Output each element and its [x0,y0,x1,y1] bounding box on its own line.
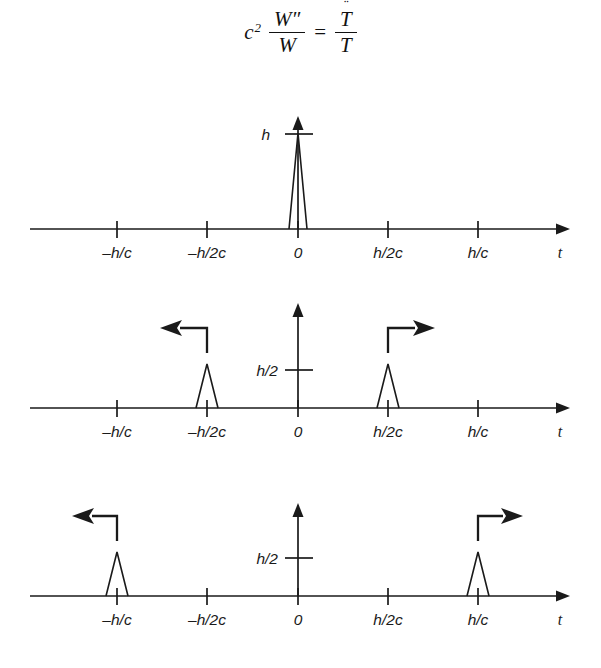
panel3-xtick-label-3: h/2c [373,611,403,628]
panel2-xtick-label-2: 0 [294,423,303,440]
panel1-ylabel-h: h [261,126,270,143]
panel3-xtick-label-1: –h/2c [187,611,226,628]
panel3-x-axis-arrowhead [556,591,570,602]
panel2-xtick-label-4: h/c [468,423,489,440]
panel2-ylabel-h-over-2: h/2 [256,362,278,379]
panel2-x-axis-arrowhead [556,403,570,414]
panel3-ylabel-h-over-2: h/2 [256,550,278,567]
panel2-y-axis-arrowhead [293,303,304,317]
panel2-xtick-label-1: –h/2c [187,423,226,440]
panel3-motion-arrow-left-line [92,516,117,541]
panel3-motion-arrow-right-line [478,516,503,541]
figure-root: c2 W″ W = ¨ T T [0,0,601,668]
panel2-xtick-label-0: –h/c [101,423,132,440]
panel1-xtick-label-0: –h/c [101,244,132,261]
panel2-motion-arrow-right-head [413,320,435,336]
panel3-xtick-label-0: –h/c [101,611,132,628]
panel3-xtick-label-2: 0 [294,611,303,628]
panel1-x-axis-arrowhead [556,224,570,235]
panel1-axis-label-t: t [558,244,563,261]
panel1-y-axis-arrowhead [293,116,304,130]
panel1-xtick-label-3: h/2c [373,244,403,261]
panel1-xtick-label-1: –h/2c [187,244,226,261]
panel-separated-pulses: h/2 –h/c –h/2c 0 h/2c h/c t [30,503,570,628]
panel2-axis-label-t: t [558,423,563,440]
panel1-xtick-label-2: 0 [294,244,303,261]
panel2-motion-arrow-left-head [160,320,182,336]
panel3-motion-arrow-left-head [72,508,94,524]
panel3-motion-arrow-right-head [501,508,523,524]
panel2-motion-arrow-left-line [180,328,207,353]
panel3-y-axis-arrowhead [293,503,304,517]
plots-svg: h –h/c –h/2c 0 h/2c h/c t [0,0,601,668]
panel-initial-pulse: h –h/c –h/2c 0 h/2c h/c t [30,116,570,261]
panel3-axis-label-t: t [558,611,563,628]
panel-split-pulses: h/2 –h/c –h/2c 0 h/2c h/c t [30,303,570,440]
panel2-motion-arrow-right-line [388,328,415,353]
panel2-xtick-label-3: h/2c [373,423,403,440]
panel1-xtick-label-4: h/c [468,244,489,261]
panel3-xtick-label-4: h/c [468,611,489,628]
